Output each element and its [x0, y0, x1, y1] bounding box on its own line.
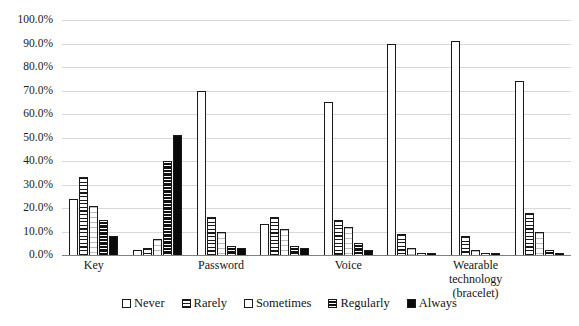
bar [461, 236, 470, 255]
legend-item-label: Rarely [194, 296, 227, 311]
x-axis-tick-label: Voice [317, 258, 381, 272]
legend-item-label: Never [134, 296, 165, 311]
bar [260, 224, 269, 255]
bar-chart: 0.0%10.0%20.0%30.0%40.0%50.0%60.0%70.0%8… [0, 0, 579, 326]
bars-layer [62, 20, 571, 255]
legend-swatch-icon [122, 299, 131, 308]
bar [491, 253, 500, 255]
bar [217, 232, 226, 256]
bar [237, 248, 246, 255]
bar-group [253, 20, 317, 255]
bar [515, 81, 524, 255]
bar [153, 239, 162, 255]
bar [334, 220, 343, 255]
bar [207, 217, 216, 255]
axis-baseline [62, 255, 571, 256]
bar [197, 91, 206, 256]
bar [407, 248, 416, 255]
y-axis-tick-label: 100.0% [18, 14, 53, 26]
bar [354, 243, 363, 255]
legend-item[interactable]: Always [407, 296, 457, 311]
y-axis-tick-label: 40.0% [23, 155, 53, 167]
bar [89, 206, 98, 255]
bar [427, 253, 436, 255]
bar [344, 227, 353, 255]
bar [471, 250, 480, 255]
bar [290, 246, 299, 255]
legend-swatch-icon [407, 299, 416, 308]
y-axis-tick-label: 10.0% [23, 226, 53, 238]
legend-swatch-icon [244, 299, 253, 308]
bar [270, 217, 279, 255]
legend-swatch-icon [328, 299, 337, 308]
legend-item-label: Regularly [340, 296, 389, 311]
x-axis: KeyPasswordVoiceWearable technology (bra… [62, 258, 571, 294]
bar [451, 41, 460, 255]
y-axis-tick-label: 80.0% [23, 61, 53, 73]
bar [227, 246, 236, 255]
y-axis-tick-label: 90.0% [23, 38, 53, 50]
bar [481, 253, 490, 255]
bar [69, 199, 78, 255]
bar [324, 102, 333, 255]
legend-item[interactable]: Sometimes [244, 296, 312, 311]
legend-item[interactable]: Never [122, 296, 165, 311]
legend-item-label: Always [419, 296, 457, 311]
bar [535, 232, 544, 256]
x-axis-tick-label: Password [189, 258, 253, 272]
bar [545, 250, 554, 255]
bar-group [444, 20, 508, 255]
bar [417, 253, 426, 255]
bar-group [317, 20, 381, 255]
x-axis-tick-label: Wearable technology (bracelet) [444, 258, 508, 300]
y-axis: 0.0%10.0%20.0%30.0%40.0%50.0%60.0%70.0%8… [0, 20, 58, 255]
bar [397, 234, 406, 255]
y-axis-tick-label: 50.0% [23, 132, 53, 144]
bar [173, 135, 182, 255]
legend-swatch-icon [182, 299, 191, 308]
legend-item-label: Sometimes [256, 296, 312, 311]
y-axis-tick-label: 0.0% [29, 249, 53, 261]
bar [79, 177, 88, 255]
bar [280, 229, 289, 255]
bar-group [189, 20, 253, 255]
legend-item[interactable]: Rarely [182, 296, 227, 311]
bar-group [126, 20, 190, 255]
bar-group [507, 20, 571, 255]
y-axis-tick-label: 60.0% [23, 108, 53, 120]
y-axis-tick-label: 30.0% [23, 179, 53, 191]
x-axis-tick-label: Key [62, 258, 126, 272]
legend-item[interactable]: Regularly [328, 296, 389, 311]
bar [387, 44, 396, 256]
bar [525, 213, 534, 255]
bar [163, 161, 172, 255]
bar [99, 220, 108, 255]
bar [364, 250, 373, 255]
bar [133, 250, 142, 255]
bar [143, 248, 152, 255]
y-axis-tick-label: 70.0% [23, 85, 53, 97]
chart-legend: NeverRarelySometimesRegularlyAlways [0, 296, 579, 311]
bar-group [62, 20, 126, 255]
bar-group [380, 20, 444, 255]
bar [555, 253, 564, 255]
bar [300, 248, 309, 255]
bar [109, 236, 118, 255]
y-axis-tick-label: 20.0% [23, 202, 53, 214]
